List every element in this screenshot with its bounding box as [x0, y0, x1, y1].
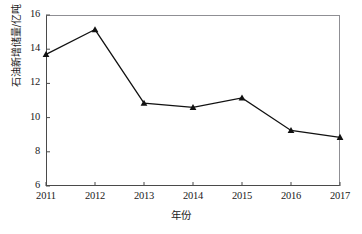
x-tick-label: 2011 — [23, 190, 69, 201]
x-tick-label: 2013 — [121, 190, 167, 201]
line-chart: 石油新增储量/亿吨 6810121416 2011201220132014201… — [0, 0, 362, 234]
x-tick-label: 2012 — [72, 190, 118, 201]
plot-area — [46, 15, 340, 186]
y-tick-label: 16 — [10, 9, 40, 20]
y-tick-label: 12 — [10, 77, 40, 88]
x-axis-title: 年份 — [0, 209, 362, 221]
y-tick-label: 6 — [10, 180, 40, 191]
x-tick-label: 2014 — [170, 190, 216, 201]
x-tick-label: 2015 — [219, 190, 265, 201]
y-tick-label: 14 — [10, 43, 40, 54]
y-tick-label: 10 — [10, 112, 40, 123]
x-tick-label: 2017 — [317, 190, 362, 201]
x-tick-label: 2016 — [268, 190, 314, 201]
y-tick-label: 8 — [10, 146, 40, 157]
